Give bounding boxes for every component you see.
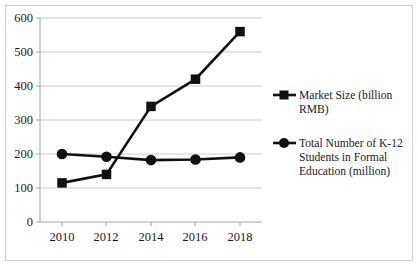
series-layer — [57, 27, 246, 188]
x-tick-label-2010: 2010 — [50, 230, 75, 244]
chart-figure: 600 500 400 300 200 100 0 2010 2012 2014… — [0, 0, 418, 266]
legend-circle-marker-icon — [279, 138, 289, 148]
legend-label-k12-line3: Education (million) — [299, 165, 390, 178]
y-tick-label-100: 100 — [14, 181, 33, 195]
y-axis-tick-labels: 600 500 400 300 200 100 0 — [14, 11, 33, 229]
legend-entry-market-size[interactable]: Market Size (billion RMB) — [273, 89, 393, 116]
line-chart-plot: 600 500 400 300 200 100 0 2010 2012 2014… — [0, 0, 418, 266]
y-tick-label-400: 400 — [14, 79, 33, 93]
y-axis-tick-marks — [36, 18, 40, 222]
data-point-marker — [102, 170, 112, 180]
x-tick-label-2012: 2012 — [94, 230, 119, 244]
legend-label-k12-line2: Students in Formal — [299, 151, 387, 164]
legend-label-market-size-line2: RMB) — [299, 103, 329, 116]
y-tick-label-500: 500 — [14, 45, 33, 59]
data-point-marker — [146, 102, 156, 112]
legend-entry-k12-students[interactable]: Total Number of K-12 Students in Formal … — [273, 137, 403, 178]
legend-label-market-size-line1: Market Size (billion — [299, 89, 393, 102]
data-point-marker — [57, 149, 68, 160]
y-tick-label-300: 300 — [14, 113, 33, 127]
x-axis-tick-labels: 2010 2012 2014 2016 2018 — [50, 230, 253, 244]
y-tick-label-0: 0 — [27, 215, 33, 229]
legend: Market Size (billion RMB) Total Number o… — [273, 89, 403, 178]
x-axis-tick-marks — [62, 222, 240, 226]
x-tick-label-2014: 2014 — [139, 230, 165, 244]
data-point-marker — [190, 154, 201, 165]
y-tick-label-200: 200 — [14, 147, 33, 161]
data-point-marker — [235, 27, 245, 36]
data-point-marker — [191, 74, 201, 84]
data-point-marker — [101, 151, 112, 162]
data-point-marker — [146, 155, 157, 166]
x-tick-label-2018: 2018 — [228, 230, 253, 244]
y-tick-label-600: 600 — [14, 11, 33, 25]
data-point-marker — [57, 178, 67, 188]
data-point-marker — [235, 152, 246, 163]
legend-label-k12-line1: Total Number of K-12 — [299, 137, 403, 150]
series-k12-students — [57, 149, 246, 166]
legend-square-marker-icon — [280, 91, 289, 100]
x-tick-label-2016: 2016 — [183, 230, 208, 244]
